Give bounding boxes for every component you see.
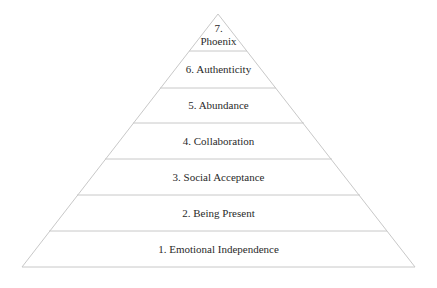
level-7-label: Phoenix (0, 35, 437, 48)
level-5-label: 5. Abundance (0, 99, 437, 112)
level-6-label: 6. Authenticity (0, 63, 437, 76)
level-2-label: 2. Being Present (0, 207, 437, 220)
level-3-label: 3. Social Acceptance (0, 171, 437, 184)
level-4-label: 4. Collaboration (0, 135, 437, 148)
level-7-number: 7. (0, 22, 437, 35)
level-1-label: 1. Emotional Independence (0, 243, 437, 256)
